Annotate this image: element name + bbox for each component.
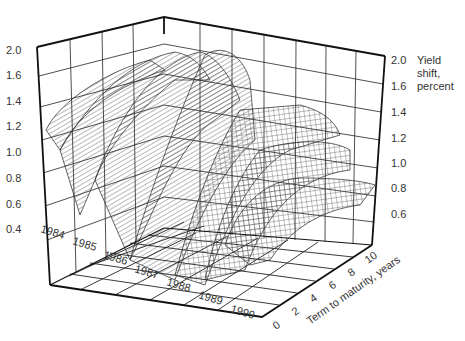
y-tick: 10 — [362, 249, 379, 266]
y-tick: 0 — [270, 318, 282, 331]
z-tick: 0.8 — [6, 172, 21, 184]
svg-text:shift,: shift, — [417, 67, 440, 79]
y-tick: 8 — [345, 265, 357, 278]
z-tick: 1.0 — [391, 157, 406, 169]
surface-chart: 2.0 1.6 1.4 1.2 1.0 0.8 0.6 0.4 2.0 1.6 … — [0, 0, 465, 341]
x-tick: 1989 — [197, 288, 224, 307]
z-axis-left: 2.0 1.6 1.4 1.2 1.0 0.8 0.6 0.4 — [6, 44, 21, 235]
y-axis-title: Term to maturity, years — [304, 253, 402, 327]
svg-text:percent: percent — [417, 80, 454, 92]
x-tick: 1986 — [102, 248, 129, 267]
z-tick: 0.4 — [6, 223, 21, 235]
z-tick: 1.0 — [6, 146, 21, 158]
z-tick: 2.0 — [391, 54, 406, 66]
y-tick: 2 — [289, 304, 301, 317]
z-tick: 1.2 — [6, 120, 21, 132]
z-tick: 0.6 — [6, 198, 21, 210]
z-axis-right: 2.0 1.6 1.4 1.2 1.0 0.8 0.6 — [391, 54, 406, 220]
svg-text:Yield: Yield — [417, 54, 441, 66]
y-tick: 4 — [307, 291, 319, 304]
z-tick: 0.8 — [391, 182, 406, 194]
z-tick: 2.0 — [6, 44, 21, 56]
z-tick: 1.6 — [391, 80, 406, 92]
x-tick: 1990 — [229, 302, 256, 321]
z-tick: 1.2 — [391, 132, 406, 144]
z-axis-title: Yield shift, percent — [417, 54, 454, 92]
y-tick: 6 — [326, 278, 338, 291]
z-tick: 1.6 — [6, 69, 21, 81]
z-tick: 1.4 — [6, 95, 21, 107]
z-tick: 1.4 — [391, 106, 406, 118]
z-tick: 0.6 — [391, 208, 406, 220]
x-tick: 1984 — [39, 222, 66, 241]
